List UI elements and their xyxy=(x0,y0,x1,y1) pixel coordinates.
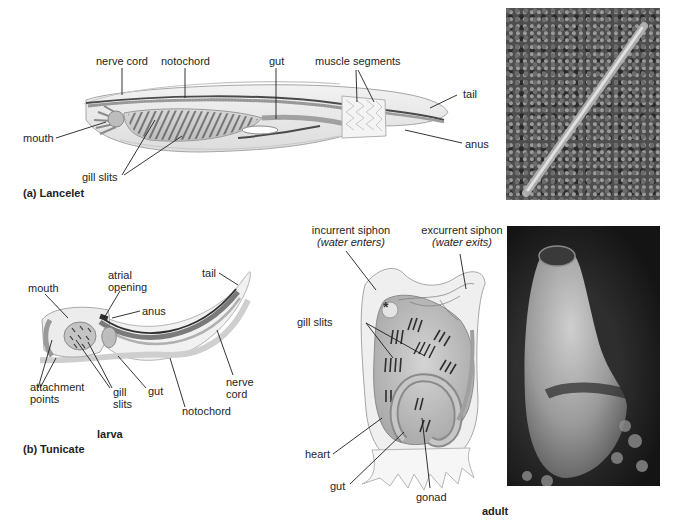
adult-label-heart: heart xyxy=(305,448,330,461)
larva-label-tail: tail xyxy=(202,267,216,280)
panel-a-title: (a) Lancelet xyxy=(23,187,84,199)
adult-label-excurrent-note: (water exits) xyxy=(416,236,508,249)
label-muscle-segments: muscle segments xyxy=(315,55,401,68)
label-mouth: mouth xyxy=(23,132,54,145)
lancelet-photo xyxy=(506,8,660,200)
larva-caption: larva xyxy=(97,428,123,441)
larva-label-gut: gut xyxy=(148,385,163,398)
larva-label-atrial-line2: opening xyxy=(108,281,147,294)
label-notochord: notochord xyxy=(161,55,210,68)
adult-label-incurrent-note: (water enters) xyxy=(306,236,396,249)
larva-label-notochord: notochord xyxy=(182,405,231,418)
panel-b-title: (b) Tunicate xyxy=(23,443,85,455)
adult-caption: adult xyxy=(482,505,508,518)
larva-label-mouth: mouth xyxy=(28,282,59,295)
label-nerve-cord: nerve cord xyxy=(96,55,148,68)
label-gill-slits: gill slits xyxy=(82,171,117,184)
label-gut: gut xyxy=(269,55,284,68)
adult-label-gut: gut xyxy=(330,480,345,493)
larva-label-attachment-line2: points xyxy=(30,393,59,406)
ganglion-asterisk-icon: * xyxy=(383,301,388,314)
label-anus: anus xyxy=(465,138,489,151)
larva-label-nerve-line2: cord xyxy=(226,388,247,401)
adult-label-gonad: gonad xyxy=(416,491,447,504)
larva-label-anus: anus xyxy=(142,305,166,318)
label-tail: tail xyxy=(463,88,477,101)
tunicate-adult-drawing xyxy=(333,251,485,490)
tunicate-photo xyxy=(507,226,660,486)
tunicate-photo-subject xyxy=(507,226,660,486)
lancelet-photo-subject xyxy=(506,8,660,200)
adult-label-gill-slits: gill slits xyxy=(297,316,332,329)
lancelet-drawing xyxy=(56,68,462,175)
larva-label-gill-line2: slits xyxy=(113,398,132,411)
